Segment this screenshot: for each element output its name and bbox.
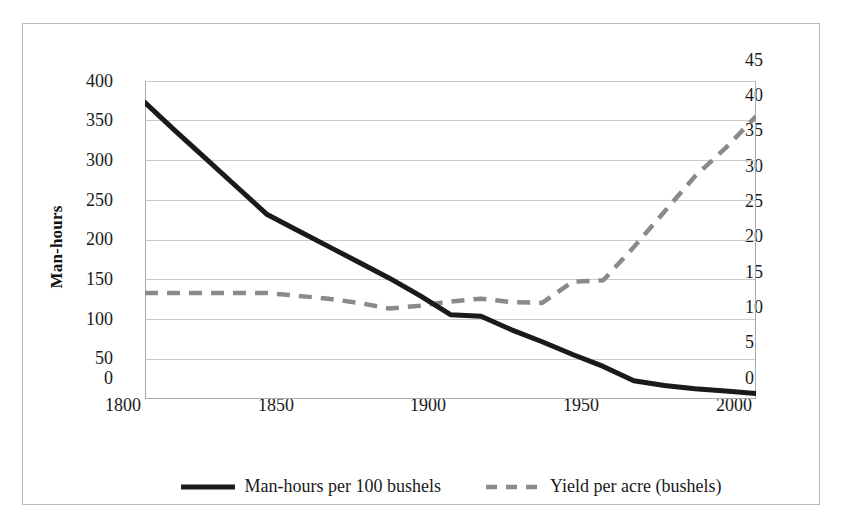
legend-swatch-solid-icon [180, 481, 236, 493]
legend-swatch-dashed-icon [485, 481, 541, 493]
y-left-tick-200: 200 [53, 230, 113, 248]
y-left-tick-400: 400 [53, 72, 113, 90]
y-left-tick-250: 250 [53, 191, 113, 209]
y-left-tick-150: 150 [53, 270, 113, 288]
y-left-tick-350: 350 [53, 111, 113, 129]
legend-label-man-hours: Man-hours per 100 bushels [245, 476, 441, 497]
chart-legend: Man-hours per 100 bushels Yield per acre… [145, 476, 756, 497]
plot-area [145, 81, 756, 399]
y-left-tick-0: 0 [53, 369, 113, 387]
legend-label-yield-per-acre: Yield per acre (bushels) [550, 476, 721, 497]
y-left-tick-300: 300 [53, 151, 113, 169]
legend-entry-yield-per-acre: Yield per acre (bushels) [485, 476, 721, 497]
chart-root: Man-hours Yield per acre (bushels) 400 3… [0, 0, 843, 530]
series-line-man-hours [145, 102, 756, 393]
chart-frame: Man-hours Yield per acre (bushels) 400 3… [22, 23, 820, 505]
legend-entry-man-hours: Man-hours per 100 bushels [180, 476, 441, 497]
y-right-tick-45: 45 [745, 51, 785, 69]
plot-svg [145, 81, 756, 399]
y-left-tick-100: 100 [53, 310, 113, 328]
y-left-tick-50: 50 [53, 349, 113, 367]
gridlines-horizontal [145, 82, 756, 360]
